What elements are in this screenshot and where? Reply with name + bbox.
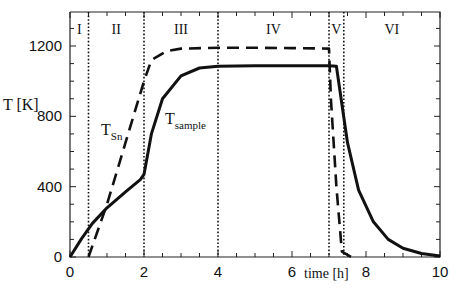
chart: 0246810 04008001200 IIIIIIIVVVI T [K] ti… <box>0 0 456 290</box>
phase-label: II <box>112 22 122 37</box>
phase-label: I <box>77 22 82 37</box>
x-tick-label: 2 <box>140 263 148 280</box>
series-t_sn <box>89 48 352 257</box>
y-tick-labels: 04008001200 <box>29 37 62 265</box>
x-tick-label: 4 <box>214 263 222 280</box>
series-lines <box>70 48 440 257</box>
x-tick-label: 6 <box>288 263 296 280</box>
phase-label: III <box>174 22 188 37</box>
x-tick-label: 0 <box>66 263 74 280</box>
phase-labels: IIIIIIIVVVI <box>77 22 400 37</box>
x-axis-label: time [h] <box>304 266 349 281</box>
phase-label: V <box>331 22 341 37</box>
series-t_sample <box>70 66 440 257</box>
series-label-tsample: Tsample <box>165 110 206 131</box>
y-tick-label: 400 <box>37 178 62 195</box>
y-tick-label: 0 <box>54 248 62 265</box>
x-tick-labels: 0246810 <box>66 263 449 280</box>
svg-text:Tsample: Tsample <box>165 110 206 131</box>
x-tick-label: 8 <box>362 263 370 280</box>
x-tick-label: 10 <box>432 263 449 280</box>
phase-label: VI <box>385 22 400 37</box>
series-label-tsn: TSn <box>101 121 123 142</box>
y-axis-label: T [K] <box>3 96 39 113</box>
y-tick-label: 800 <box>37 107 62 124</box>
svg-text:TSn: TSn <box>101 121 123 142</box>
y-tick-label: 1200 <box>29 37 62 54</box>
phase-label: IV <box>266 22 281 37</box>
